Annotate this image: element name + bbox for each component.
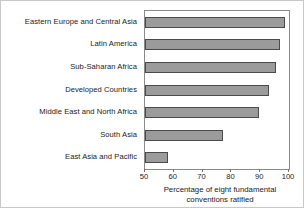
bar xyxy=(145,62,276,73)
x-axis-title-line-1: Percentage of eight fundamental xyxy=(144,185,296,195)
x-axis-tick-label: 100 xyxy=(277,172,299,182)
x-axis-title: Percentage of eight fundamental conventi… xyxy=(144,185,296,204)
category-label: Sub-Saharan Africa xyxy=(70,61,137,72)
category-label: Latin America xyxy=(90,38,137,49)
bar xyxy=(145,17,285,28)
x-axis-tick-label: 90 xyxy=(248,172,270,182)
plot-area xyxy=(144,10,290,170)
bar-chart: Eastern Europe and Central AsiaLatin Ame… xyxy=(0,0,304,208)
category-label: Eastern Europe and Central Asia xyxy=(25,16,137,27)
x-axis-tick-label: 70 xyxy=(191,172,213,182)
x-axis-title-line-2: conventions ratified xyxy=(144,195,296,205)
x-axis-tick-label: 50 xyxy=(133,172,155,182)
x-axis-tick-label: 60 xyxy=(162,172,184,182)
bar xyxy=(145,107,259,118)
bar xyxy=(145,130,223,141)
x-axis-tick-label: 80 xyxy=(219,172,241,182)
category-label: East Asia and Pacific xyxy=(65,151,137,162)
x-axis: 5060708090100 xyxy=(144,169,289,183)
bar xyxy=(145,152,168,163)
category-label: Middle East and North Africa xyxy=(39,106,137,117)
category-label: South Asia xyxy=(100,129,137,140)
category-axis-labels: Eastern Europe and Central AsiaLatin Ame… xyxy=(1,10,141,168)
bar xyxy=(145,39,280,50)
category-label: Developed Countries xyxy=(65,84,137,95)
bar xyxy=(145,85,269,96)
